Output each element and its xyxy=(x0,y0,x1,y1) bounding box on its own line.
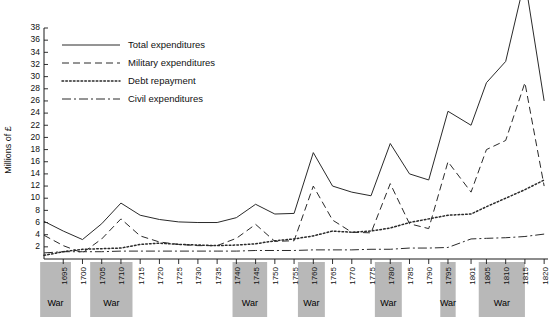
x-tick-label-1720: 1720 xyxy=(156,266,165,284)
series-line-military-expenditures xyxy=(44,83,544,253)
x-tick-label-1735: 1735 xyxy=(214,266,223,284)
x-tick-label-1725: 1725 xyxy=(175,266,184,284)
x-tick-label-1805: 1805 xyxy=(483,266,492,284)
chart-legend: Total expendituresMilitary expendituresD… xyxy=(62,39,215,104)
y-axis: 2468101214161820222426283032343638 xyxy=(31,22,48,259)
x-tick-label-1695: 1695 xyxy=(60,266,69,284)
x-tick-label-1715: 1715 xyxy=(137,266,146,284)
y-tick-label-36: 36 xyxy=(31,34,41,44)
x-tick-label-1740: 1740 xyxy=(233,266,242,284)
war-band-labels-group: WarWarWarWarWarWarWar xyxy=(47,298,509,308)
x-tick-label-1790: 1790 xyxy=(425,266,434,284)
x-tick-label-1755: 1755 xyxy=(291,266,300,284)
y-tick-label-8: 8 xyxy=(35,205,40,215)
y-tick-label-30: 30 xyxy=(31,71,41,81)
legend-label-3: Civil expenditures xyxy=(128,93,203,104)
y-tick-label-38: 38 xyxy=(31,22,41,32)
legend-label-2: Debt repayment xyxy=(128,75,196,86)
x-tick-label-1710: 1710 xyxy=(117,266,126,284)
war-band-label-5: War xyxy=(440,298,456,308)
war-band-label-2: War xyxy=(242,298,258,308)
x-tick-label-1765: 1765 xyxy=(329,266,338,284)
x-tick-label-1730: 1730 xyxy=(194,266,203,284)
expenditures-line-chart: WarWarWarWarWarWarWar 246810121416182022… xyxy=(0,0,558,321)
y-tick-label-28: 28 xyxy=(31,83,41,93)
y-tick-label-14: 14 xyxy=(31,168,41,178)
y-tick-label-4: 4 xyxy=(35,229,40,239)
x-tick-label-1815: 1815 xyxy=(521,266,530,284)
x-tick-label-1700: 1700 xyxy=(79,266,88,284)
y-tick-label-2: 2 xyxy=(35,241,40,251)
y-tick-label-16: 16 xyxy=(31,156,41,166)
y-tick-label-18: 18 xyxy=(31,144,41,154)
x-tick-label-1750: 1750 xyxy=(271,266,280,284)
y-tick-label-20: 20 xyxy=(31,132,41,142)
series-line-total-expenditures xyxy=(44,0,544,240)
war-band-label-0: War xyxy=(47,298,63,308)
war-band-label-4: War xyxy=(380,298,396,308)
series-line-debt-repayment xyxy=(44,180,544,255)
y-tick-label-32: 32 xyxy=(31,59,41,69)
x-tick-label-1820: 1820 xyxy=(541,266,550,284)
series-group xyxy=(44,0,544,255)
y-tick-label-24: 24 xyxy=(31,107,41,117)
x-tick-label-1795: 1795 xyxy=(444,266,453,284)
x-tick-label-1785: 1785 xyxy=(406,266,415,284)
y-tick-label-34: 34 xyxy=(31,47,41,57)
war-band-label-3: War xyxy=(303,298,319,308)
chart-container: WarWarWarWarWarWarWar 246810121416182022… xyxy=(0,0,558,321)
y-tick-label-6: 6 xyxy=(35,217,40,227)
x-tick-label-1775: 1775 xyxy=(368,266,377,284)
legend-label-1: Military expenditures xyxy=(128,57,215,68)
y-tick-label-22: 22 xyxy=(31,120,41,130)
war-band-label-1: War xyxy=(103,298,119,308)
war-band-label-6: War xyxy=(494,298,510,308)
x-tick-label-1801: 1801 xyxy=(468,266,477,284)
x-tick-label-1705: 1705 xyxy=(98,266,107,284)
series-line-civil-expenditures xyxy=(44,234,544,253)
y-axis-title: Millions of £ xyxy=(3,126,13,174)
x-tick-label-1745: 1745 xyxy=(252,266,261,284)
x-tick-label-1780: 1780 xyxy=(387,266,396,284)
y-tick-label-26: 26 xyxy=(31,95,41,105)
legend-label-0: Total expenditures xyxy=(128,39,205,50)
x-tick-label-1810: 1810 xyxy=(502,266,511,284)
y-tick-label-12: 12 xyxy=(31,180,41,190)
x-tick-label-1760: 1760 xyxy=(310,266,319,284)
x-tick-label-1770: 1770 xyxy=(348,266,357,284)
y-tick-label-10: 10 xyxy=(31,192,41,202)
